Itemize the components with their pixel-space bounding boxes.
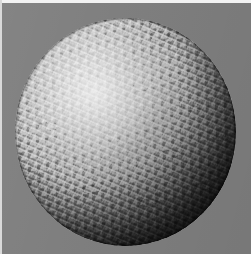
sphere-object	[15, 18, 236, 246]
frame-border-left	[0, 0, 2, 254]
render-canvas	[0, 0, 251, 254]
frame-border-top	[0, 0, 251, 3]
sphere-diffuse-shading	[15, 18, 236, 246]
sphere-body	[15, 18, 236, 246]
